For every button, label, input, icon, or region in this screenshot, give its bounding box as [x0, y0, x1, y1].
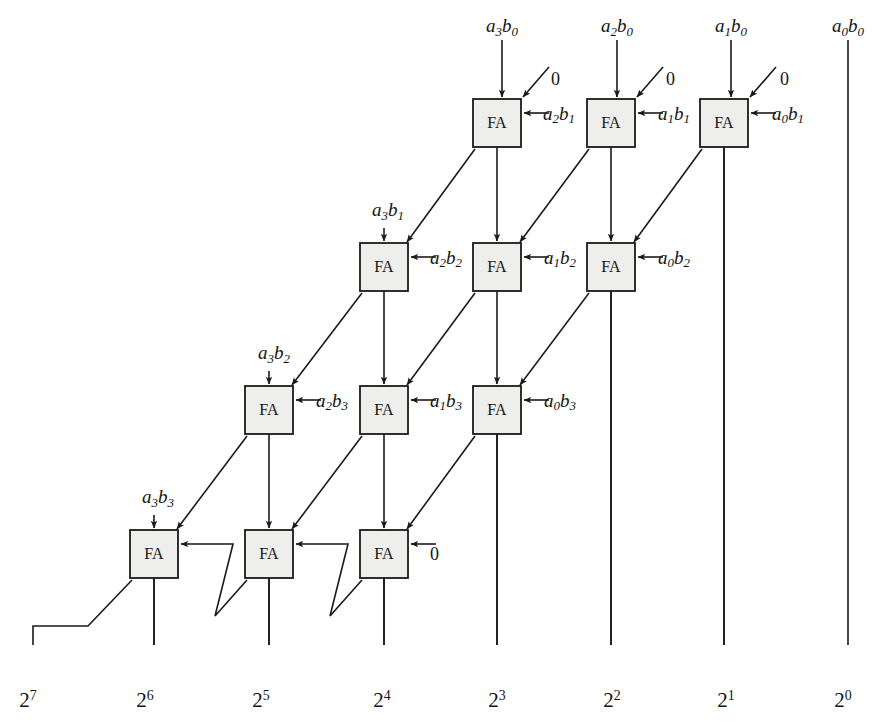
term-part: a2 — [430, 247, 446, 268]
input-label-a2b1: a2b1 — [543, 104, 575, 123]
output-2-7: 27 — [19, 690, 36, 711]
term-part: b3 — [158, 486, 174, 507]
wire-carry-fa-r1-c1 — [407, 293, 475, 385]
term-part: a0 — [832, 15, 848, 36]
term-subscript: 2 — [284, 351, 290, 366]
term-subscript: 2 — [553, 111, 559, 126]
output-2-4: 24 — [373, 690, 390, 711]
fa-r0-c0-text: FA — [487, 114, 507, 131]
output-exponent: 4 — [384, 688, 391, 703]
term-subscript: 1 — [440, 398, 446, 413]
term-part: b1 — [559, 103, 575, 124]
term-subscript: 2 — [611, 24, 617, 39]
term-subscript: 2 — [455, 255, 461, 270]
fa-r2-c2[interactable]: FA — [473, 386, 521, 434]
output-2-0: 20 — [834, 690, 851, 711]
term-part: a0 — [772, 103, 788, 124]
fa-r0-c2[interactable]: FA — [700, 99, 748, 147]
term-part: b0 — [502, 15, 518, 36]
output-2-2: 22 — [603, 690, 620, 711]
wire-carry-fa-r2-c0 — [177, 436, 247, 529]
term-part: b1 — [388, 199, 404, 220]
term-subscript: 1 — [725, 24, 731, 39]
output-exponent: 5 — [263, 688, 270, 703]
output-exponent: 2 — [614, 688, 621, 703]
fa-r0-c1-text: FA — [601, 114, 621, 131]
output-base: 27 — [19, 688, 36, 712]
input-label-a2b2: a2b2 — [430, 248, 462, 267]
wire-zero-in-fa-r0-c2 — [750, 67, 776, 97]
term-subscript: 0 — [668, 255, 674, 270]
term-part: a2 — [543, 103, 559, 124]
output-base: 21 — [717, 688, 734, 712]
term-subscript: 3 — [152, 495, 158, 510]
input-label-a3b0: a3b0 — [486, 16, 518, 35]
output-exponent: 3 — [499, 688, 506, 703]
term-part: b2 — [674, 247, 690, 268]
term-part: b1 — [788, 103, 804, 124]
term-subscript: 3 — [496, 24, 502, 39]
fa-r1-c2[interactable]: FA — [587, 243, 635, 291]
output-base: 23 — [488, 688, 505, 712]
input-label-a0b3: a0b3 — [544, 391, 576, 410]
term-subscript: 3 — [168, 495, 174, 510]
term-part: a3 — [372, 199, 388, 220]
fa-r2-c0[interactable]: FA — [245, 386, 293, 434]
wire-zero-in-fa-r0-c0 — [523, 67, 549, 97]
input-label-a3b2: a3b2 — [258, 343, 290, 362]
zero-literal-zero-row0-col0: 0 — [551, 70, 560, 88]
fa-r1-c0[interactable]: FA — [360, 243, 408, 291]
term-subscript: 0 — [554, 398, 560, 413]
fa-r0-c2-text: FA — [714, 114, 734, 131]
wire-ripple-carry-1 — [181, 544, 247, 616]
term-subscript: 3 — [268, 351, 274, 366]
term-part: a3 — [142, 486, 158, 507]
wire-ripple-carry-2 — [296, 544, 362, 616]
term-subscript: 0 — [842, 24, 848, 39]
zero-literal-zero-row3-carryin: 0 — [430, 545, 439, 563]
fa-r1-c0-text: FA — [374, 258, 394, 275]
fa-r2-c1[interactable]: FA — [360, 386, 408, 434]
input-label-a2b0: a2b0 — [601, 16, 633, 35]
fa-r3-c2[interactable]: FA — [360, 530, 408, 578]
input-label-a1b1: a1b1 — [658, 104, 690, 123]
input-label-a0b0: a0b0 — [832, 16, 864, 35]
term-part: b0 — [731, 15, 747, 36]
output-2-1: 21 — [717, 690, 734, 711]
fa-r2-c0-text: FA — [259, 401, 279, 418]
term-subscript: 2 — [683, 255, 689, 270]
term-subscript: 1 — [398, 208, 404, 223]
term-part: a1 — [715, 15, 731, 36]
term-part: b3 — [446, 390, 462, 411]
term-part: a1 — [430, 390, 446, 411]
term-part: b3 — [332, 390, 348, 411]
input-label-a3b1: a3b1 — [372, 200, 404, 219]
fa-r3-c0[interactable]: FA — [130, 530, 178, 578]
fa-r0-c1[interactable]: FA — [587, 99, 635, 147]
term-part: b1 — [674, 103, 690, 124]
zero-literal-zero-row0-col2: 0 — [780, 70, 789, 88]
wire-zero-in-fa-r0-c1 — [637, 67, 663, 97]
term-subscript: 1 — [568, 111, 574, 126]
term-subscript: 1 — [797, 111, 803, 126]
term-subscript: 0 — [627, 24, 633, 39]
output-2-6: 26 — [136, 690, 153, 711]
array-multiplier-diagram: FAFAFAFAFAFAFAFAFAFAFAFA a3b0a2b0a1b0a0b… — [0, 0, 872, 728]
input-label-a1b0: a1b0 — [715, 16, 747, 35]
term-subscript: 0 — [741, 24, 747, 39]
fa-r1-c1[interactable]: FA — [473, 243, 521, 291]
output-base: 26 — [136, 688, 153, 712]
fa-r0-c0[interactable]: FA — [473, 99, 521, 147]
fa-r3-c1-text: FA — [259, 545, 279, 562]
input-label-a1b2: a1b2 — [544, 248, 576, 267]
wire-carry-fa-r0-c0 — [407, 149, 475, 242]
fa-r3-c1[interactable]: FA — [245, 530, 293, 578]
wire-carry-fa-r2-c2 — [407, 436, 475, 529]
term-part: b3 — [560, 390, 576, 411]
term-subscript: 1 — [554, 255, 560, 270]
term-part: a3 — [258, 342, 274, 363]
fa-r3-c0-text: FA — [144, 545, 164, 562]
term-subscript: 3 — [455, 398, 461, 413]
term-part: b2 — [274, 342, 290, 363]
output-exponent: 6 — [147, 688, 154, 703]
